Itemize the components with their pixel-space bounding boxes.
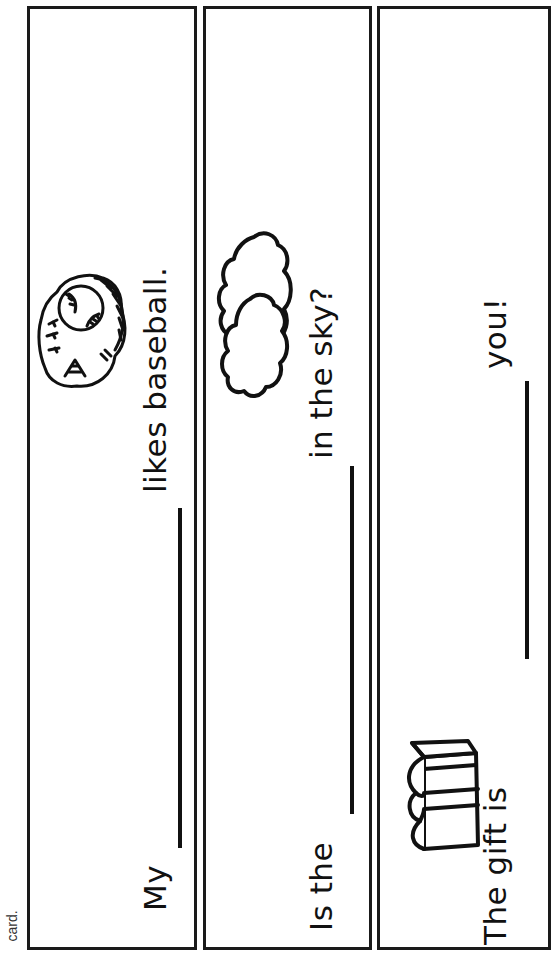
caption: card. [0,898,24,954]
sentence-card-1: My likes baseball. [27,6,197,950]
caption-text: card. [4,910,20,941]
sentence-card-2: Is the in the sky? [203,6,372,950]
answer-blank-1[interactable] [178,508,182,848]
sentence-1-start: My [140,865,171,911]
baseball-glove-icon [35,264,135,399]
sentence-2-end: in the sky? [306,287,337,459]
sentence-3-start: The gift is [480,787,511,945]
gift-box-icon [398,737,484,855]
cloud-icon [214,227,299,405]
answer-blank-2[interactable] [350,466,354,814]
answer-blank-3[interactable] [525,381,529,659]
sentence-1-end: likes baseball. [140,267,171,493]
sentence-3-end: you! [480,298,511,369]
sentence-2-start: Is the [306,842,337,931]
sentence-card-3: The gift is you! [377,6,551,950]
